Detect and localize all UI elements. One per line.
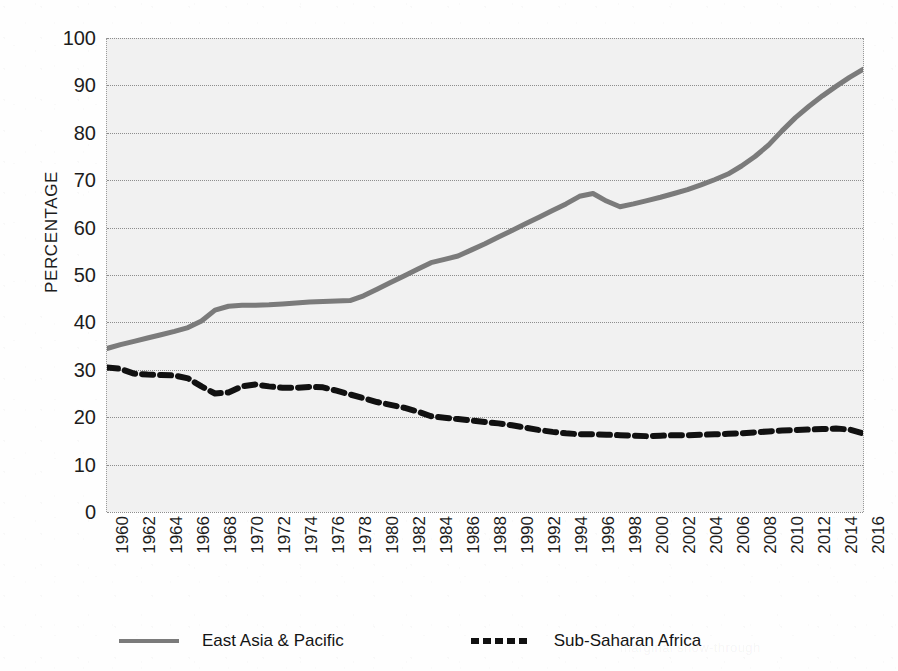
x-axis-tick-label: 1994 [572,516,592,554]
y-axis-tick-label: 70 [74,169,96,192]
plot-area [106,38,864,512]
x-axis-tick-label: 1974 [302,516,322,554]
y-axis-tick-labels: 1009080706050403020100 [0,38,96,512]
legend-item-1[interactable]: East Asia & Pacific [118,631,344,651]
x-axis-tick-label: 1988 [491,516,511,554]
x-axis-tick-label: 1964 [167,516,187,554]
legend-swatch-solid-line-icon [118,634,180,648]
x-axis-tick-label: 1998 [626,516,646,554]
x-axis-tick-label: 2010 [788,516,808,554]
x-axis-tick-label: 2014 [842,516,862,554]
gridline [107,512,863,513]
y-axis-tick-label: 0 [85,501,96,524]
y-axis-tick-label: 30 [74,358,96,381]
x-axis-tick-label: 1992 [545,516,565,554]
x-axis-tick-label: 1984 [437,516,457,554]
x-axis-tick-labels: 1960196219641966196819701972197419761978… [106,516,862,600]
x-axis-tick-label: 1970 [248,516,268,554]
legend-label: Sub-Saharan Africa [554,631,701,651]
x-axis-tick-label: 1962 [140,516,160,554]
x-axis-tick-label: 2012 [815,516,835,554]
y-axis-tick-label: 40 [74,311,96,334]
series-line-1 [107,69,863,348]
chart-legend: East Asia & PacificSub-Saharan Africa [106,626,862,656]
x-axis-tick-label: 1978 [356,516,376,554]
y-axis-tick-label: 20 [74,406,96,429]
x-axis-tick-label: 1972 [275,516,295,554]
x-axis-tick-label: 1986 [464,516,484,554]
y-axis-tick-label: 10 [74,453,96,476]
chart-page: the reverse side of this pagefaint show-… [0,0,898,671]
x-axis-tick-label: 2006 [734,516,754,554]
legend-item-2[interactable]: Sub-Saharan Africa [470,631,701,651]
y-axis-tick-label: 60 [74,216,96,239]
series-lines [107,38,863,512]
y-axis-tick-label: 80 [74,121,96,144]
x-axis-tick-label: 1966 [194,516,214,554]
x-axis-tick-label: 2000 [653,516,673,554]
x-axis-tick-label: 1990 [518,516,538,554]
x-axis-tick-label: 1980 [383,516,403,554]
y-axis-tick-label: 50 [74,264,96,287]
x-axis-tick-label: 2016 [869,516,889,554]
x-axis-tick-label: 1982 [410,516,430,554]
series-line-2 [107,367,863,436]
x-axis-tick-label: 2004 [707,516,727,554]
legend-label: East Asia & Pacific [202,631,344,651]
legend-swatch-dashed-line-icon [470,634,532,648]
x-axis-tick-label: 2002 [680,516,700,554]
x-axis-tick-label: 1968 [221,516,241,554]
y-axis-tick-label: 100 [63,27,96,50]
x-axis-tick-label: 1960 [113,516,133,554]
x-axis-tick-label: 2008 [761,516,781,554]
y-axis-tick-label: 90 [74,74,96,97]
x-axis-tick-label: 1996 [599,516,619,554]
x-axis-tick-label: 1976 [329,516,349,554]
